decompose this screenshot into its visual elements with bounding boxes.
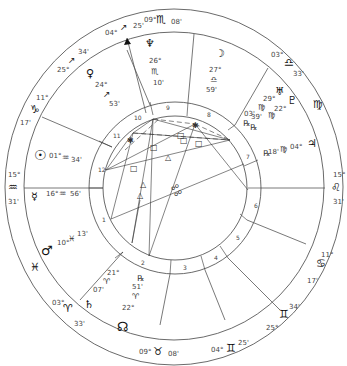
svg-text:✱: ✱	[192, 121, 199, 130]
svg-text:22°: 22°	[122, 304, 134, 312]
mc-axis-line	[127, 38, 146, 113]
svg-text:♂: ♂	[41, 243, 53, 258]
svg-text:25°: 25°	[266, 324, 278, 332]
svg-text:♑: ♑	[30, 103, 40, 116]
svg-text:26°: 26°	[149, 57, 161, 65]
svg-text:♍: ♍	[268, 111, 275, 120]
svg-text:♌: ♌	[331, 181, 341, 194]
svg-text:04°: 04°	[105, 29, 117, 37]
svg-text:℞: ℞	[137, 274, 144, 283]
svg-text:56': 56'	[70, 190, 81, 198]
svg-text:♈: ♈	[103, 277, 110, 286]
svg-text:22°: 22°	[274, 105, 286, 113]
svg-text:16°: 16°	[46, 190, 58, 198]
svg-text:♅: ♅	[275, 85, 285, 98]
svg-text:△: △	[137, 191, 144, 200]
svg-text:10': 10'	[153, 79, 164, 87]
svg-text:♍: ♍	[280, 145, 287, 154]
svg-text:15°: 15°	[333, 171, 345, 179]
svg-text:□: □	[130, 164, 138, 173]
svg-text:4: 4	[214, 254, 218, 261]
planet-mars: ♂ 10° ♓ 13'	[41, 230, 88, 258]
svg-text:27°: 27°	[209, 66, 221, 74]
svg-text:31': 31'	[8, 198, 19, 206]
svg-text:17': 17'	[20, 119, 31, 127]
svg-text:♈: ♈	[63, 302, 73, 315]
svg-text:♎: ♎	[210, 75, 217, 84]
svg-text:♃: ♃	[307, 137, 317, 150]
svg-text:♒: ♒	[62, 153, 69, 162]
svg-text:□: □	[180, 136, 188, 145]
house-cusp-lines	[24, 34, 325, 325]
svg-text:13': 13'	[77, 230, 88, 238]
svg-text:34': 34'	[289, 303, 300, 311]
svg-text:51': 51'	[132, 283, 143, 291]
svg-text:℞: ℞	[243, 119, 250, 128]
svg-text:℞: ℞	[250, 123, 257, 132]
svg-text:10: 10	[134, 114, 142, 121]
svg-text:34': 34'	[78, 48, 89, 56]
svg-text:♇: ♇	[287, 94, 297, 107]
svg-text:♓: ♓	[30, 261, 40, 274]
svg-text:12: 12	[98, 166, 106, 173]
svg-text:07': 07'	[93, 286, 104, 294]
svg-text:℞: ℞	[263, 149, 270, 158]
svg-text:9: 9	[166, 104, 170, 111]
svg-text:△: △	[140, 180, 147, 189]
svg-text:09°: 09°	[139, 348, 151, 356]
svg-text:☽: ☽	[215, 47, 225, 60]
svg-text:59': 59'	[206, 86, 217, 94]
svg-text:♍: ♍	[258, 103, 265, 112]
svg-text:☍: ☍	[174, 189, 182, 198]
svg-text:33': 33'	[74, 320, 85, 328]
natal-chart-wheel: ✱ ✱ □ □ □ □ □ △ △ △ ☍ ☍ 1 2 3 4 5 6 7 8 …	[0, 0, 347, 366]
svg-text:33': 33'	[293, 70, 304, 78]
svg-text:↗: ↗	[120, 22, 128, 32]
svg-text:25': 25'	[133, 22, 144, 30]
svg-text:☊: ☊	[117, 319, 129, 334]
svg-text:♋: ♋	[316, 257, 326, 270]
svg-text:08': 08'	[168, 350, 179, 358]
svg-text:♆: ♆	[145, 37, 155, 50]
svg-text:♉: ♉	[153, 345, 163, 358]
svg-text:03': 03'	[244, 110, 255, 118]
svg-text:31': 31'	[333, 198, 344, 206]
svg-text:☿: ☿	[31, 190, 38, 203]
svg-text:♀: ♀	[86, 67, 94, 80]
svg-text:3: 3	[183, 264, 187, 271]
planet-moon: ☽ 27° ♎ 59'	[206, 47, 225, 94]
svg-text:♏: ♏	[151, 67, 159, 76]
svg-text:15°: 15°	[8, 171, 20, 179]
svg-text:17': 17'	[307, 277, 318, 285]
svg-text:2: 2	[141, 259, 145, 266]
svg-text:7: 7	[246, 153, 250, 160]
svg-text:♊: ♊	[226, 342, 236, 355]
svg-text:↗: ↗	[68, 55, 76, 65]
svg-text:♏: ♏	[156, 13, 166, 26]
svg-text:5: 5	[236, 234, 240, 241]
svg-text:04°: 04°	[211, 346, 223, 354]
svg-text:♓: ♓	[68, 234, 75, 243]
svg-text:8: 8	[207, 111, 211, 118]
svg-text:♍: ♍	[313, 98, 323, 111]
svg-text:♒: ♒	[8, 181, 18, 194]
svg-text:♈: ♈	[132, 292, 139, 301]
svg-text:08': 08'	[171, 18, 182, 26]
svg-text:24°: 24°	[95, 81, 107, 89]
svg-text:01°: 01°	[49, 152, 61, 160]
svg-text:25': 25'	[238, 339, 249, 347]
svg-text:53': 53'	[109, 100, 120, 108]
svg-text:☉: ☉	[34, 147, 47, 163]
planet-sun: ☉ 01° ♒ 34'	[34, 147, 82, 164]
svg-text:♎: ♎	[284, 56, 294, 69]
svg-text:21°: 21°	[107, 269, 119, 277]
svg-text:□: □	[195, 139, 203, 148]
svg-text:△: △	[165, 153, 172, 162]
svg-text:11°: 11°	[36, 94, 48, 102]
planet-venus: ♀ 24° ↗ 53'	[86, 67, 120, 108]
svg-text:04°: 04°	[290, 143, 302, 151]
planet-node: ☊ ℞ 51' ♈ 22°	[117, 274, 144, 334]
svg-text:✱: ✱	[127, 136, 134, 145]
planet-jupiter: ♃ 04° ♍ 18' ℞	[263, 137, 317, 158]
svg-text:29°: 29°	[263, 95, 275, 103]
